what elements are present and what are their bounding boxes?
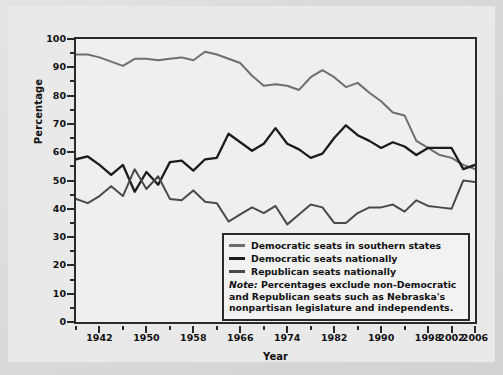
- y-tick-label: 50: [40, 176, 66, 186]
- y-tick-mark: [67, 123, 74, 125]
- y-tick-label: 20: [40, 260, 66, 270]
- x-tick-mark-minor: [310, 326, 312, 330]
- series-line: [76, 125, 475, 192]
- y-tick-label: 30: [40, 232, 66, 242]
- y-tick-mark: [67, 180, 74, 182]
- y-tick-mark: [67, 66, 74, 68]
- legend-note-text: Percentages exclude non-Democratic and R…: [229, 279, 456, 313]
- legend-note: Note: Percentages exclude non-Democratic…: [229, 279, 463, 314]
- x-tick-mark: [239, 326, 241, 333]
- y-tick-label: 90: [40, 62, 66, 72]
- x-tick-mark-minor: [357, 326, 359, 330]
- x-tick-label: 2006: [455, 332, 495, 343]
- chart-page: Percentage 0102030405060708090100 194219…: [0, 0, 503, 375]
- y-tick-mark: [67, 95, 74, 97]
- x-tick-mark-minor: [122, 326, 124, 330]
- y-tick-label: 100: [40, 34, 66, 44]
- legend-item: Democratic seats in southern states: [229, 239, 463, 251]
- y-tick-label: 80: [40, 91, 66, 101]
- y-tick-mark: [67, 321, 74, 323]
- y-tick-label: 70: [40, 119, 66, 129]
- legend-swatch-icon: [229, 270, 245, 273]
- x-tick-mark: [192, 326, 194, 333]
- series-line: [76, 52, 475, 169]
- x-tick-mark: [474, 326, 476, 333]
- x-tick-mark-minor: [169, 326, 171, 330]
- y-tick-label: 40: [40, 204, 66, 214]
- x-tick-label: 1942: [79, 332, 119, 343]
- figure-panel: Percentage 0102030405060708090100 194219…: [8, 6, 495, 362]
- x-tick-mark-minor: [216, 326, 218, 330]
- y-tick-label: 60: [40, 147, 66, 157]
- legend-entries: Democratic seats in southern statesDemoc…: [229, 239, 463, 277]
- x-tick-label: 1950: [126, 332, 166, 343]
- y-tick-mark: [67, 208, 74, 210]
- y-tick-mark: [67, 293, 74, 295]
- legend: Democratic seats in southern statesDemoc…: [222, 233, 470, 321]
- x-tick-mark: [451, 326, 453, 333]
- x-tick-label: 1966: [220, 332, 260, 343]
- legend-swatch-icon: [229, 257, 245, 260]
- x-tick-mark-minor: [75, 326, 77, 330]
- legend-note-lead: Note:: [229, 279, 258, 290]
- legend-item: Republican seats nationally: [229, 265, 463, 277]
- legend-swatch-icon: [229, 244, 245, 247]
- legend-item-label: Republican seats nationally: [251, 266, 396, 277]
- x-tick-mark: [333, 326, 335, 333]
- y-tick-mark: [67, 38, 74, 40]
- x-tick-mark-minor: [263, 326, 265, 330]
- x-tick-label: 1982: [314, 332, 354, 343]
- legend-item-label: Democratic seats nationally: [251, 253, 397, 264]
- y-tick-label: 0: [40, 317, 66, 327]
- x-axis-title: Year: [74, 351, 477, 362]
- x-tick-mark: [145, 326, 147, 333]
- x-tick-mark-minor: [404, 326, 406, 330]
- x-tick-label: 1974: [267, 332, 307, 343]
- series-line: [76, 169, 475, 224]
- x-tick-label: 1958: [173, 332, 213, 343]
- legend-item-label: Democratic seats in southern states: [251, 240, 441, 251]
- y-tick-mark: [67, 264, 74, 266]
- x-tick-mark: [286, 326, 288, 333]
- legend-item: Democratic seats nationally: [229, 252, 463, 264]
- x-tick-mark: [427, 326, 429, 333]
- y-tick-mark: [67, 151, 74, 153]
- x-tick-mark: [380, 326, 382, 333]
- x-tick-label: 1990: [361, 332, 401, 343]
- x-tick-mark: [98, 326, 100, 333]
- y-tick-mark: [67, 236, 74, 238]
- y-tick-label: 10: [40, 289, 66, 299]
